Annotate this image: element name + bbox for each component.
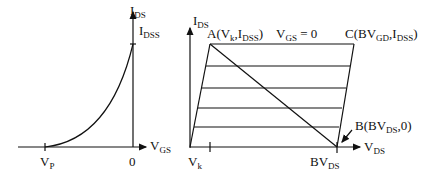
point-a-label: A(Vk,IDSS) <box>207 27 263 40</box>
vk-label: Vk <box>188 155 202 168</box>
load-line <box>210 44 337 147</box>
vp-label: VP <box>40 155 54 168</box>
idss-label: IDSS <box>139 24 160 37</box>
left-boundary <box>190 44 210 147</box>
point-b-label: B(BVDS,0) <box>355 119 412 132</box>
vds-axis-label: VDS <box>364 140 385 153</box>
point-c-label: C(BVGD,IDSS) <box>345 27 418 40</box>
left-ids-label: IDS <box>130 4 146 17</box>
output-characteristic-plot <box>190 28 360 153</box>
transfer-characteristic-plot <box>18 12 146 151</box>
vgs-axis-label: VGS <box>150 139 171 152</box>
transfer-curve <box>45 44 133 147</box>
origin-label: 0 <box>129 155 136 168</box>
bvds-label: BVDS <box>310 155 340 168</box>
b-pointer <box>342 130 352 142</box>
vgs-zero-label: VGS = 0 <box>276 27 317 40</box>
